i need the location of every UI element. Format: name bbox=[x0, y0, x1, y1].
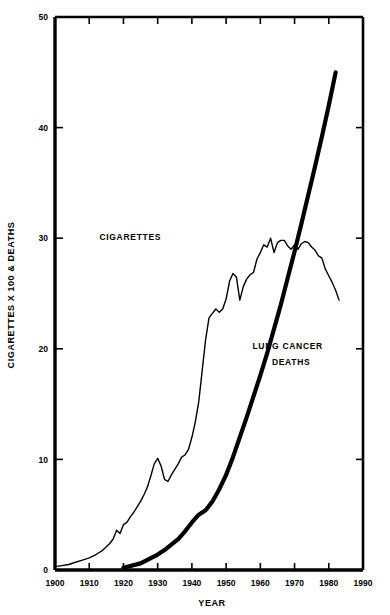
series-annotations: CIGARETTESLUNG CANCERDEATHS bbox=[99, 232, 323, 367]
x-axis-tick-labels: 1900191019201930194019501960197019801990 bbox=[46, 578, 373, 588]
series-line-lung-cancer-deaths bbox=[123, 72, 335, 567]
annotation-label: DEATHS bbox=[272, 357, 311, 367]
x-tick-label: 1960 bbox=[251, 578, 270, 588]
y-axis-title: CIGARETTES X 100 & DEATHS bbox=[6, 222, 16, 369]
chart-plot-area: 1900191019201930194019501960197019801990… bbox=[0, 0, 390, 615]
x-tick-label: 1930 bbox=[148, 578, 167, 588]
y-tick-label: 30 bbox=[39, 233, 49, 243]
x-tick-label: 1980 bbox=[319, 578, 338, 588]
y-tick-label: 50 bbox=[39, 12, 49, 22]
y-tick-label: 0 bbox=[43, 565, 48, 575]
lung-cancer-cigarettes-chart: 1900191019201930194019501960197019801990… bbox=[0, 0, 390, 615]
x-tick-label: 1920 bbox=[114, 578, 133, 588]
x-axis-ticks bbox=[89, 17, 329, 570]
plot-frame bbox=[55, 17, 363, 570]
x-tick-label: 1900 bbox=[46, 578, 65, 588]
y-axis-tick-labels: 01020304050 bbox=[39, 12, 49, 575]
y-tick-label: 10 bbox=[39, 455, 49, 465]
annotation-label: CIGARETTES bbox=[99, 232, 161, 242]
x-tick-label: 1950 bbox=[217, 578, 236, 588]
x-tick-label: 1990 bbox=[354, 578, 373, 588]
x-tick-label: 1970 bbox=[285, 578, 304, 588]
annotation-label: LUNG CANCER bbox=[252, 341, 323, 351]
y-tick-label: 20 bbox=[39, 344, 49, 354]
x-tick-label: 1940 bbox=[182, 578, 201, 588]
y-tick-label: 40 bbox=[39, 123, 49, 133]
data-series-lines bbox=[55, 72, 339, 567]
y-axis-ticks bbox=[55, 128, 363, 460]
x-axis-title: YEAR bbox=[198, 598, 225, 608]
x-tick-label: 1910 bbox=[80, 578, 99, 588]
